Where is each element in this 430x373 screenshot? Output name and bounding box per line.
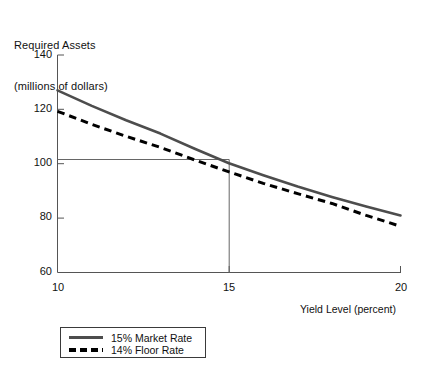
legend-item-floor-rate: 14% Floor Rate — [69, 343, 184, 356]
chart-legend: 15% Market Rate 14% Floor Rate — [60, 327, 206, 358]
legend-label-market-rate: 15% Market Rate — [111, 332, 192, 344]
legend-label-floor-rate: 14% Floor Rate — [111, 344, 184, 356]
legend-swatch-dashed-line-icon — [69, 344, 103, 355]
legend-swatch-solid-line-icon — [69, 332, 103, 343]
chart-plot-area — [0, 0, 430, 373]
chart-figure: Required Assets (millions of dollars) 14… — [0, 0, 430, 373]
